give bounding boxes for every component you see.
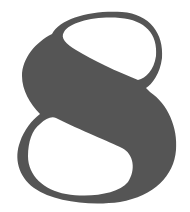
stylized-eight-icon — [0, 0, 190, 212]
logo-canvas: 8 — [0, 0, 190, 212]
